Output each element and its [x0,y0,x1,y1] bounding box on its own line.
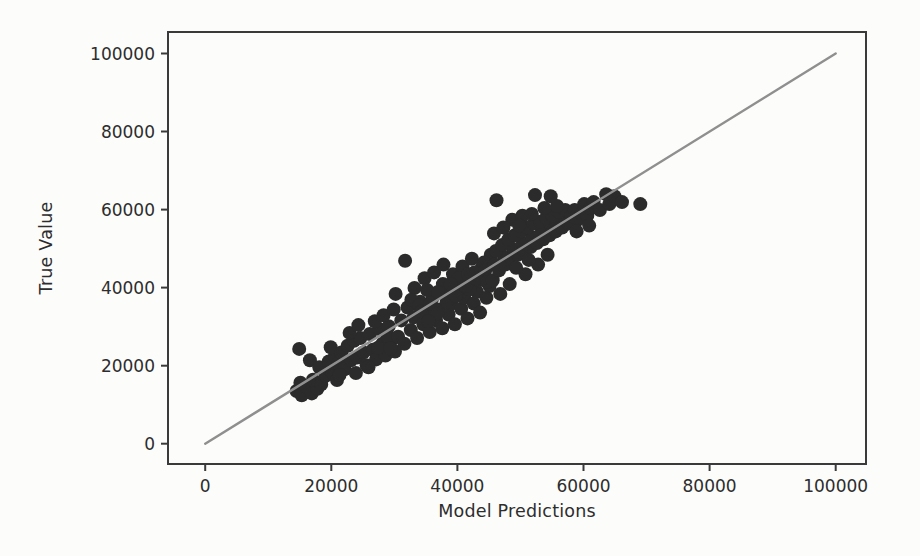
scatter-point [633,197,647,211]
x-axis-title: Model Predictions [168,501,866,521]
scatter-point [448,317,462,331]
y-tick-label: 60000 [101,200,155,220]
scatter-point [371,341,385,355]
scatter-point [292,342,306,356]
x-tick-label: 0 [200,476,211,496]
y-tick-label: 100000 [90,44,155,64]
x-tick-label: 80000 [683,476,737,496]
y-tick-label: 80000 [101,122,155,142]
scatter-point [490,193,504,207]
y-tick-label: 20000 [101,356,155,376]
scatter-point [351,318,365,332]
x-tick-label: 20000 [304,476,358,496]
y-tick-label: 40000 [101,278,155,298]
scatter-point [410,331,424,345]
scatter-point [509,261,523,275]
scatter-point [512,219,526,233]
scatter-point [570,224,584,238]
scatter-point [496,221,510,235]
y-tick-label: 0 [144,434,155,454]
scatter-figure: 0200004000060000800001000000200004000060… [0,0,920,556]
scatter-point [473,306,487,320]
scatter-plot-canvas: 0200004000060000800001000000200004000060… [0,0,920,556]
scatter-point [349,366,363,380]
y-axis-title: True Value [36,202,56,295]
scatter-point [479,291,493,305]
scatter-point [615,195,629,209]
x-tick-label: 40000 [430,476,484,496]
scatter-point [421,314,435,328]
scatter-point [333,368,347,382]
scatter-point [537,201,551,215]
scatter-point [541,248,555,262]
x-tick-label: 60000 [556,476,610,496]
scatter-point [384,342,398,356]
scatter-point [398,254,412,268]
scatter-point [461,311,475,325]
scatter-point [528,188,542,202]
scatter-point [525,207,539,221]
scatter-point [435,321,449,335]
scatter-point [582,219,596,233]
scatter-point [522,253,536,267]
scatter-point [362,360,376,374]
scatter-point [397,337,411,351]
identity-line [205,54,836,444]
scatter-point [408,281,422,295]
scatter-point [389,287,403,301]
scatter-point [550,199,564,213]
scatter-point [503,277,517,291]
x-tick-label: 100000 [803,476,868,496]
